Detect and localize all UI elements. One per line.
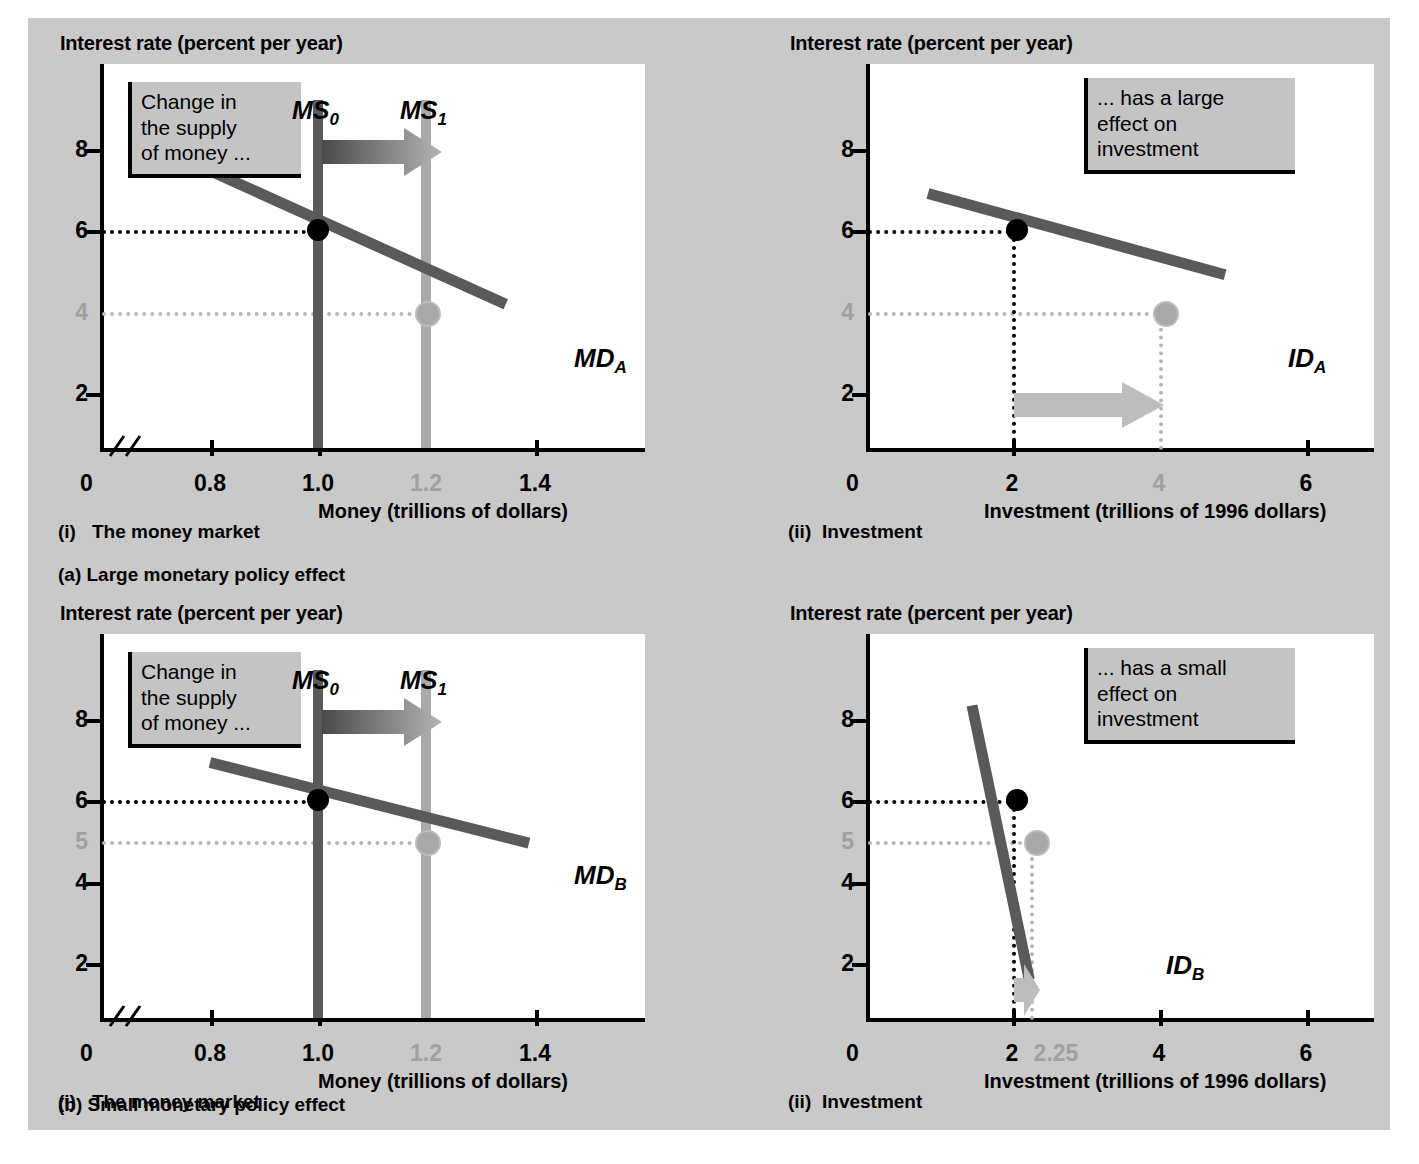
reference-line-i4 bbox=[1159, 312, 1163, 450]
y-tick-2 bbox=[852, 393, 868, 397]
id-a-curve bbox=[927, 188, 1227, 280]
x-tick-label-2-25: 2.25 bbox=[1020, 1040, 1092, 1067]
md-b-label-sub: B bbox=[614, 875, 626, 894]
md-a-label-text: MD bbox=[574, 343, 614, 373]
callout-change-in-supply: Change in the supply of money ... bbox=[128, 82, 301, 178]
panel-caption-text: The money market bbox=[92, 521, 260, 542]
callout-line-2: the supply bbox=[141, 685, 289, 711]
y-axis-title: Interest rate (percent per year) bbox=[60, 602, 343, 625]
group-caption-a: (a) Large monetary policy effect bbox=[58, 564, 345, 586]
callout-line-2: effect on bbox=[1097, 681, 1283, 707]
x-tick-label-0-8: 0.8 bbox=[180, 470, 240, 497]
y-tick-8 bbox=[852, 149, 868, 153]
x-tick-6 bbox=[1306, 1010, 1310, 1026]
id-b-label-sub: B bbox=[1192, 965, 1204, 984]
panel-caption-roman: (ii) bbox=[788, 1091, 822, 1113]
x-tick-label-1-2: 1.2 bbox=[396, 470, 456, 497]
md-a-label: MDA bbox=[574, 343, 627, 378]
panel-a-ii: Interest rate (percent per year) ... has… bbox=[758, 18, 1390, 538]
callout-line-1: ... has a large bbox=[1097, 85, 1283, 111]
x-tick-1-4 bbox=[535, 1010, 539, 1026]
x-tick-label-0-8: 0.8 bbox=[180, 1040, 240, 1067]
ms0-label-sub: 0 bbox=[330, 110, 339, 129]
y-tick-6 bbox=[852, 230, 868, 234]
equilibrium-point-new bbox=[415, 301, 441, 327]
panel-caption-roman: (ii) bbox=[788, 521, 822, 543]
x-tick-0-8 bbox=[210, 1010, 214, 1026]
panel-b-i: Interest rate (percent per year) bbox=[28, 588, 688, 1118]
y-tick-label-2: 2 bbox=[48, 380, 88, 407]
md-a-curve bbox=[203, 163, 508, 309]
money-supply-shift-arrow bbox=[322, 698, 442, 746]
panel-caption-b-ii: (ii)Investment bbox=[788, 1091, 922, 1113]
callout-line-2: effect on bbox=[1097, 111, 1283, 137]
x-axis-line bbox=[866, 1018, 1374, 1022]
y-tick-label-2: 2 bbox=[48, 950, 88, 977]
callout-line-1: Change in bbox=[141, 89, 289, 115]
callout-small-effect: ... has a small effect on investment bbox=[1084, 648, 1295, 744]
reference-line-r4 bbox=[868, 312, 1165, 316]
y-tick-label-6: 6 bbox=[48, 217, 88, 244]
x-axis-break bbox=[104, 434, 150, 460]
md-b-label: MDB bbox=[574, 860, 627, 895]
y-tick-8 bbox=[86, 719, 102, 723]
y-tick-6 bbox=[86, 230, 102, 234]
callout-change-in-supply: Change in the supply of money ... bbox=[128, 652, 301, 748]
panel-caption-text: Investment bbox=[822, 521, 922, 542]
y-tick-label-6: 6 bbox=[814, 217, 854, 244]
panel-caption-a-ii: (ii)Investment bbox=[788, 521, 922, 543]
y-tick-label-8: 8 bbox=[48, 706, 88, 733]
y-tick-label-8: 8 bbox=[814, 136, 854, 163]
y-tick-label-8: 8 bbox=[48, 136, 88, 163]
ms1-label-sub: 1 bbox=[438, 680, 447, 699]
group-caption-b: (b) Small monetary policy effect bbox=[58, 1094, 345, 1116]
y-tick-label-6: 6 bbox=[48, 787, 88, 814]
x-tick-label-1-4: 1.4 bbox=[505, 470, 565, 497]
equilibrium-point-new bbox=[1153, 301, 1179, 327]
y-axis-title: Interest rate (percent per year) bbox=[60, 32, 343, 55]
equilibrium-point-new bbox=[1024, 830, 1050, 856]
y-axis-title: Interest rate (percent per year) bbox=[790, 602, 1073, 625]
callout-line-1: Change in bbox=[141, 659, 289, 685]
y-tick-6 bbox=[852, 800, 868, 804]
y-tick-4 bbox=[852, 882, 868, 886]
y-tick-2 bbox=[86, 393, 102, 397]
equilibrium-point-initial bbox=[307, 219, 329, 241]
x-origin-label: 0 bbox=[80, 470, 93, 497]
callout-line-2: the supply bbox=[141, 115, 289, 141]
figure-canvas: Interest rate (percent per year) bbox=[28, 18, 1390, 1130]
x-tick-0-8 bbox=[210, 440, 214, 456]
ms1-label-text: MS bbox=[400, 96, 438, 124]
x-axis-break bbox=[104, 1004, 150, 1030]
x-axis-title: Investment (trillions of 1996 dollars) bbox=[984, 1070, 1326, 1093]
ms0-label: MS0 bbox=[292, 666, 339, 700]
ms1-label-text: MS bbox=[400, 666, 438, 694]
id-a-label-text: ID bbox=[1288, 343, 1314, 373]
y-tick-label-4: 4 bbox=[814, 869, 854, 896]
plot-area-a-ii: ... has a large effect on investment bbox=[866, 64, 1374, 452]
x-axis-line bbox=[100, 448, 645, 452]
panel-caption-roman: (i) bbox=[58, 521, 92, 543]
ms0-label-text: MS bbox=[292, 666, 330, 694]
id-a-label-sub: A bbox=[1314, 358, 1326, 377]
x-axis-line bbox=[100, 1018, 645, 1022]
x-tick-label-1-0: 1.0 bbox=[288, 1040, 348, 1067]
y-axis-title: Interest rate (percent per year) bbox=[790, 32, 1073, 55]
callout-line-3: investment bbox=[1097, 706, 1283, 732]
y-tick-6 bbox=[86, 800, 102, 804]
x-tick-label-6: 6 bbox=[1276, 470, 1336, 497]
y-tick-2 bbox=[86, 963, 102, 967]
x-origin-label: 0 bbox=[846, 1040, 859, 1067]
id-a-label: IDA bbox=[1288, 343, 1326, 378]
ms0-label-text: MS bbox=[292, 96, 330, 124]
id-b-label-text: ID bbox=[1166, 950, 1192, 980]
ms0-label: MS0 bbox=[292, 96, 339, 130]
x-axis-line bbox=[866, 448, 1374, 452]
ms1-label: MS1 bbox=[400, 666, 447, 700]
ms1-label: MS1 bbox=[400, 96, 447, 130]
panel-b-ii: Interest rate (percent per year) bbox=[758, 588, 1390, 1118]
equilibrium-point-initial bbox=[1006, 219, 1028, 241]
x-axis-title: Investment (trillions of 1996 dollars) bbox=[984, 500, 1326, 523]
reference-line-r6 bbox=[102, 800, 322, 804]
x-tick-6 bbox=[1306, 440, 1310, 456]
